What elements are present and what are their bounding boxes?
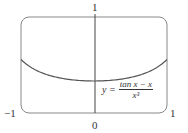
function-curve [21,59,167,81]
function-formula: y = tan x − x x³ [102,79,153,100]
x-tick-label-1: 1 [170,108,176,119]
y-tick-label-1: 1 [92,2,98,13]
formula-fraction: tan x − x x³ [119,79,153,100]
plot-area [0,0,188,133]
x-tick-label-0: 0 [92,120,98,131]
formula-lhs: y = [102,84,116,95]
formula-numerator: tan x − x [119,79,153,90]
x-tick-label-neg1: −1 [4,108,16,119]
formula-denominator: x³ [133,90,140,100]
